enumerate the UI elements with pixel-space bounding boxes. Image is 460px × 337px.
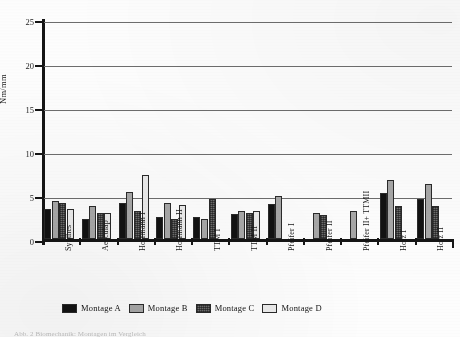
bar-montage-b	[126, 192, 133, 239]
bar-group	[42, 19, 79, 239]
x-tick	[154, 238, 156, 245]
category-label: Holz I	[399, 230, 408, 251]
x-tick	[415, 238, 417, 245]
x-tick	[377, 238, 379, 245]
bar-montage-a	[119, 203, 126, 239]
legend-label: Montage A	[81, 303, 121, 313]
legend-label: Montage D	[281, 303, 321, 313]
bar-group	[415, 19, 452, 239]
bar-group	[117, 19, 154, 239]
category-label: Holz II	[436, 227, 445, 251]
bar-montage-a	[156, 217, 163, 239]
bar-group	[79, 19, 116, 239]
category-label: TTM II	[250, 226, 259, 251]
bar-group	[340, 19, 377, 239]
x-tick	[191, 238, 193, 245]
legend-swatch	[129, 304, 144, 313]
bar-montage-a	[44, 209, 51, 239]
category-label: Hoffmann I	[138, 212, 147, 251]
legend-item: Montage D	[262, 303, 321, 313]
y-axis-title: Nm/mm	[0, 74, 8, 104]
x-tick	[340, 238, 342, 245]
y-tick-label-20: 20	[12, 61, 34, 71]
legend-label: Montage C	[215, 303, 255, 313]
x-tick	[79, 238, 81, 245]
x-tick	[228, 238, 230, 245]
bar-montage-b	[313, 213, 320, 239]
legend-item: Montage C	[196, 303, 255, 313]
bar-montage-b	[238, 211, 245, 239]
legend-item: Montage B	[129, 303, 188, 313]
legend-swatch	[62, 304, 77, 313]
bar-montage-b	[52, 201, 59, 239]
y-tick-label-10: 10	[12, 149, 34, 159]
x-tick	[303, 238, 305, 245]
bar-group	[154, 19, 191, 239]
x-tick	[266, 238, 268, 245]
bar-montage-b	[89, 206, 96, 239]
bar-montage-b	[350, 211, 357, 239]
category-label: Aesculap	[101, 220, 110, 251]
bar-montage-a	[231, 214, 238, 239]
chart-legend: Montage AMontage BMontage CMontage D	[62, 303, 322, 313]
bar-montage-a	[82, 219, 89, 239]
bar-montage-a	[417, 199, 424, 239]
x-tick	[42, 238, 44, 245]
category-label: Synthes	[64, 225, 73, 251]
y-tick-label-25: 25	[12, 17, 34, 27]
bar-group	[303, 19, 340, 239]
bar-montage-b	[425, 184, 432, 239]
bar-group	[191, 19, 228, 239]
category-label: Pfeifer II+ TTMII	[362, 191, 371, 251]
x-tick	[117, 238, 119, 245]
legend-swatch	[196, 304, 211, 313]
category-label: Pfeifer II	[325, 220, 334, 251]
y-tick-label-15: 15	[12, 105, 34, 115]
bar-montage-a	[193, 217, 200, 239]
bar-group	[228, 19, 265, 239]
bar-group	[266, 19, 303, 239]
x-tick	[452, 241, 454, 248]
chart-plot-area	[42, 22, 452, 242]
category-label: TTM I	[213, 229, 222, 251]
bar-montage-a	[268, 204, 275, 239]
bar-montage-b	[164, 203, 171, 239]
legend-item: Montage A	[62, 303, 121, 313]
bar-montage-b	[201, 219, 208, 239]
bar-group	[377, 19, 414, 239]
category-label: Pfeifer I	[287, 223, 296, 251]
figure-container: 0510152025 Nm/mm SynthesAesculapHoffmann…	[0, 0, 460, 337]
legend-label: Montage B	[148, 303, 188, 313]
legend-swatch	[262, 304, 277, 313]
y-tick-label-0: 0	[12, 237, 34, 247]
bar-montage-a	[380, 193, 387, 239]
category-label: Hoffmann II	[175, 209, 184, 251]
y-tick-label-5: 5	[12, 193, 34, 203]
bar-montage-b	[387, 180, 394, 239]
figure-caption: Abb. 2 Biomechanik: Montagen im Vergleic…	[14, 330, 146, 337]
bar-montage-b	[275, 196, 282, 239]
